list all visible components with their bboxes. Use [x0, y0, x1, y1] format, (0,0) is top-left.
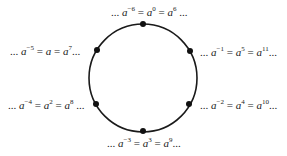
label-lower-left: ... a−4 = a2 = a8 ... — [8, 99, 84, 111]
node-dot-lower-left — [93, 101, 99, 107]
label-upper-left: ... a−5 = a = a7... — [10, 45, 80, 57]
node-dot-upper-right — [187, 48, 193, 54]
exponent: −4 — [25, 98, 32, 106]
ellipsis: ... — [111, 6, 122, 18]
equals: = — [156, 6, 168, 18]
ellipsis: ... — [200, 46, 211, 58]
equals: = — [245, 46, 257, 58]
equals: = — [152, 137, 164, 149]
ellipsis: ... — [200, 99, 211, 111]
node-dot-top — [140, 21, 146, 27]
ellipsis: ... — [10, 45, 21, 57]
equals: = — [245, 99, 257, 111]
ellipsis: ... — [172, 137, 180, 149]
equals: = — [135, 6, 147, 18]
equals: = — [224, 46, 236, 58]
exponent: −6 — [128, 5, 135, 13]
label-bottom: ... a−3 = a3 = a9... — [107, 137, 181, 149]
label-upper-right: ... a−1 = a5 = a11... — [200, 46, 277, 58]
exponent: −3 — [124, 136, 131, 144]
node-dot-lower-right — [186, 101, 192, 107]
equals: = — [51, 45, 63, 57]
equals: = — [32, 99, 44, 111]
exponent: −5 — [27, 44, 34, 52]
ellipsis: ... — [176, 6, 187, 18]
exponent: −2 — [217, 98, 224, 106]
equals: = — [131, 137, 143, 149]
exponent: −1 — [217, 45, 224, 53]
cycle-diagram — [0, 0, 287, 156]
ellipsis: ... — [8, 99, 19, 111]
label-lower-right: ... a−2 = a4 = a10... — [200, 99, 277, 111]
node-dot-bottom — [140, 128, 146, 134]
ellipsis: ... — [269, 99, 277, 111]
cycle-circle — [89, 24, 197, 132]
exponent: 10 — [262, 98, 269, 106]
ellipsis: ... — [269, 46, 277, 58]
equals: = — [224, 99, 236, 111]
ellipsis: ... — [72, 45, 80, 57]
ellipsis: ... — [73, 99, 84, 111]
equals: = — [34, 45, 46, 57]
equals: = — [53, 99, 65, 111]
label-top: ... a−6 = a0 = a6 ... — [111, 6, 187, 18]
node-dot-upper-left — [94, 47, 100, 53]
ellipsis: ... — [107, 137, 118, 149]
exponent: 11 — [262, 45, 269, 53]
